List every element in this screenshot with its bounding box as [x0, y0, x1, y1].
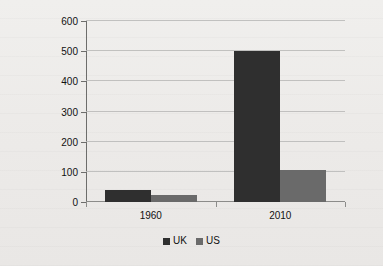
bar-uk-2010 — [234, 51, 280, 202]
y-tick-label-300: 300 — [0, 106, 78, 117]
legend-label-uk: UK — [173, 236, 187, 246]
y-tick-label-0: 0 — [0, 197, 78, 208]
bar-us-1960 — [151, 195, 197, 202]
gridline-200 — [86, 141, 345, 142]
x-axis-tick-1 — [216, 202, 217, 207]
y-tick-label-400: 400 — [0, 76, 78, 87]
y-tick-400 — [81, 81, 86, 82]
y-tick-label-500: 500 — [0, 46, 78, 57]
plot-area — [86, 21, 345, 202]
bar-chart: % share of GDP 0100200300400500600 19602… — [0, 0, 383, 266]
y-tick-300 — [81, 112, 86, 113]
legend-swatch-uk — [163, 238, 170, 245]
gridline-300 — [86, 111, 345, 112]
bar-uk-1960 — [105, 190, 151, 202]
y-tick-label-200: 200 — [0, 136, 78, 147]
y-tick-600 — [81, 21, 86, 22]
y-tick-200 — [81, 142, 86, 143]
x-axis-label-2010: 2010 — [269, 210, 291, 221]
x-axis-label-1960: 1960 — [140, 210, 162, 221]
chart-legend: UKUS — [0, 236, 383, 246]
legend-item-uk: UK — [163, 236, 187, 246]
gridline-600 — [86, 20, 345, 21]
y-tick-label-600: 600 — [0, 16, 78, 27]
legend-swatch-us — [196, 238, 203, 245]
y-tick-100 — [81, 172, 86, 173]
y-tick-500 — [81, 51, 86, 52]
x-axis-tick-0 — [86, 202, 87, 207]
legend-item-us: US — [196, 236, 220, 246]
y-tick-label-100: 100 — [0, 166, 78, 177]
gridline-500 — [86, 50, 345, 51]
legend-label-us: US — [206, 236, 220, 246]
bar-us-2010 — [280, 170, 326, 202]
gridline-400 — [86, 80, 345, 81]
x-axis-tick-2 — [345, 202, 346, 207]
